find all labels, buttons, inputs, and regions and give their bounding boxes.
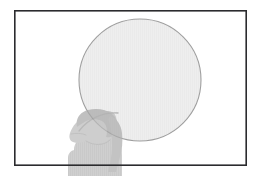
illustration-svg [0,0,260,176]
illustration-canvas [0,0,260,176]
